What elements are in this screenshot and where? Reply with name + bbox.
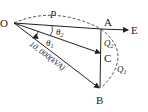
- label-b: B: [96, 94, 103, 106]
- angle-arc-theta2: [50, 26, 53, 36]
- label-a: A: [104, 16, 112, 28]
- power-triangle-diagram: O A E C B P θ2 θ1 Q2 Q1 10, 000(kVA): [0, 0, 148, 112]
- label-e: E: [131, 24, 138, 36]
- arrow-ae: [101, 29, 128, 30]
- label-o: O: [0, 17, 8, 29]
- label-theta2: θ2: [56, 27, 63, 38]
- angle-arc-theta1: [33, 31, 38, 38]
- label-p: P: [49, 9, 56, 20]
- line-ab: [100, 29, 101, 88]
- label-q1: Q1: [117, 64, 127, 75]
- label-c: C: [104, 52, 111, 64]
- label-theta1: θ1: [46, 38, 53, 49]
